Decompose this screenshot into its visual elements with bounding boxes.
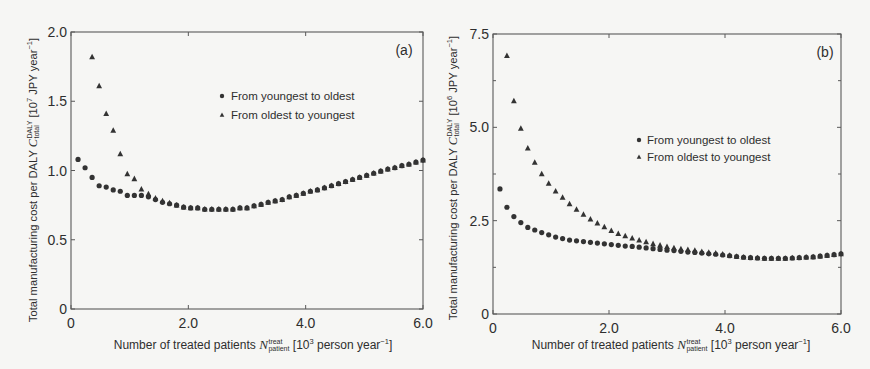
- data-point-circle: [525, 225, 530, 230]
- legend-label: From oldest to youngest: [231, 109, 355, 121]
- data-point-triangle: [504, 52, 510, 58]
- data-point-triangle: [139, 186, 145, 192]
- x-tick-label: 0: [67, 315, 75, 331]
- data-point-circle: [776, 256, 781, 261]
- data-point-circle: [790, 255, 795, 260]
- data-point-circle: [406, 162, 411, 167]
- chart-panel-b: 02.55.07.502.04.06.0From youngest to old…: [470, 26, 851, 336]
- y-axis-label-text: Total manufacturing cost per DALY: [27, 147, 39, 322]
- data-point-circle: [797, 255, 802, 260]
- data-point-triangle: [636, 237, 642, 243]
- data-point-circle: [160, 200, 165, 205]
- x-tick-label: 2.0: [179, 315, 199, 331]
- data-point-circle: [539, 230, 544, 235]
- data-point-circle: [706, 251, 711, 256]
- x-axis-label-b: Number of treated patients Ntreatpatient…: [491, 337, 851, 353]
- data-point-circle: [97, 183, 102, 188]
- data-point-circle: [181, 205, 186, 210]
- chart-panel-a: 00.51.01.52.002.04.06.0From youngest to …: [48, 24, 433, 331]
- x-tick-label: 2.0: [599, 320, 619, 336]
- data-point-circle: [174, 203, 179, 208]
- unit-prefix: [10: [707, 338, 727, 352]
- unit-suffix: ]: [447, 36, 459, 39]
- x-axis-label-a: Number of treated patients Ntreatpatient…: [73, 337, 433, 353]
- y-tick-label: 0: [481, 306, 489, 322]
- data-point-circle: [769, 256, 774, 261]
- data-point-circle: [650, 246, 655, 251]
- data-point-circle: [692, 250, 697, 255]
- unit-exponent: 7: [25, 98, 34, 102]
- unit-exponent-2: −1: [798, 337, 807, 346]
- data-point-circle: [308, 189, 313, 194]
- data-point-triangle: [532, 159, 538, 165]
- data-point-circle: [420, 158, 425, 163]
- x-tick-label: 6.0: [831, 320, 851, 336]
- legend-entry: From youngest to oldest: [637, 134, 771, 146]
- panel-label: (a): [395, 42, 412, 58]
- data-point-circle: [581, 239, 586, 244]
- data-point-triangle: [601, 224, 607, 230]
- y-axis-label-b: Total manufacturing cost per DALY CDALYt…: [445, 8, 461, 348]
- data-point-circle: [223, 207, 228, 212]
- data-point-circle: [518, 220, 523, 225]
- data-point-circle: [699, 251, 704, 256]
- legend: From youngest to oldestFrom oldest to yo…: [220, 90, 355, 121]
- symbol-subscript: total: [453, 119, 460, 137]
- symbol-subscript: patient: [686, 345, 707, 352]
- unit-suffix: ]: [389, 338, 392, 352]
- y-tick-label: 5.0: [470, 119, 490, 135]
- data-point-circle: [125, 193, 130, 198]
- series-circle: [497, 186, 843, 261]
- data-point-circle: [153, 197, 158, 202]
- unit-prefix: [10: [289, 338, 309, 352]
- data-point-circle: [146, 194, 151, 199]
- legend-label: From oldest to youngest: [647, 151, 771, 163]
- legend-triangle-icon: [637, 154, 642, 158]
- unit-exponent-2: −1: [445, 39, 454, 48]
- data-point-circle: [251, 203, 256, 208]
- legend-label: From youngest to oldest: [647, 134, 771, 146]
- data-point-triangle: [546, 180, 552, 186]
- data-point-circle: [588, 240, 593, 245]
- legend-label: From youngest to oldest: [231, 90, 355, 102]
- data-point-circle: [511, 214, 516, 219]
- data-point-circle: [357, 175, 362, 180]
- data-point-circle: [762, 256, 767, 261]
- data-point-circle: [609, 242, 614, 247]
- data-point-circle: [755, 255, 760, 260]
- unit-middle: person year: [314, 338, 381, 352]
- data-point-circle: [287, 194, 292, 199]
- data-point-circle: [195, 205, 200, 210]
- data-point-circle: [630, 244, 635, 249]
- data-point-triangle: [615, 231, 621, 237]
- unit-suffix: ]: [27, 38, 39, 41]
- unit-exponent-2: −1: [25, 41, 34, 50]
- y-tick-label: 0: [59, 301, 67, 317]
- symbol-superscript: DALY: [26, 121, 33, 139]
- x-axis-symbol-scripts: treatpatient: [686, 338, 707, 352]
- x-axis-symbol-scripts: treatpatient: [268, 338, 289, 352]
- data-point-circle: [602, 241, 607, 246]
- data-point-circle: [104, 185, 109, 190]
- data-point-circle: [678, 249, 683, 254]
- data-point-triangle: [574, 206, 580, 212]
- data-point-circle: [818, 254, 823, 259]
- figure-canvas: 00.51.01.52.002.04.06.0From youngest to …: [0, 0, 870, 369]
- y-tick-label: 1.0: [48, 163, 68, 179]
- y-axis-symbol: C: [446, 137, 460, 145]
- x-axis-symbol: N: [677, 337, 686, 352]
- x-axis-label-text: Number of treated patients: [532, 338, 677, 352]
- y-axis-symbol-scripts: DALYtotal: [26, 121, 40, 139]
- data-point-circle: [413, 160, 418, 165]
- data-point-circle: [90, 175, 95, 180]
- data-point-triangle: [608, 228, 614, 234]
- data-point-triangle: [657, 242, 663, 248]
- data-point-circle: [294, 193, 299, 198]
- data-point-circle: [209, 207, 214, 212]
- y-axis-symbol-scripts: DALYtotal: [446, 119, 460, 137]
- data-point-circle: [720, 252, 725, 257]
- y-axis-symbol: C: [26, 139, 40, 147]
- unit-exponent: 6: [445, 96, 454, 100]
- unit-middle: person year: [732, 338, 799, 352]
- data-points: [75, 54, 425, 212]
